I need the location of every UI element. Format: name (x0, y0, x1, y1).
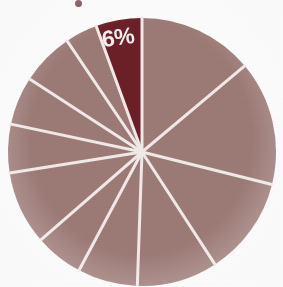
pie-chart-figure: 6% (0, 0, 283, 287)
pie-chart-svg: 6% (0, 0, 283, 287)
ink-speck (75, 0, 82, 7)
pie-slice-labels: 6% (100, 22, 136, 52)
pie-slice-value-label: 6% (100, 22, 136, 52)
